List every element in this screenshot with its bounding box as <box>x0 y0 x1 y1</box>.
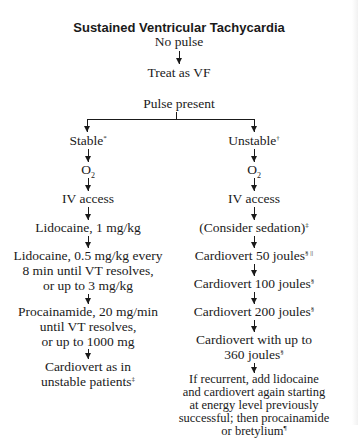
branch-line <box>87 119 254 120</box>
node-cardiovert-360: Cardiovert with up to360 joules§ <box>176 332 332 362</box>
node-pulse-present: Pulse present <box>0 96 358 111</box>
node-cardiovert-50: Cardiovert 50 joules§ || <box>176 248 332 263</box>
connector-line <box>176 112 177 119</box>
arrow-down-icon <box>84 178 93 191</box>
arrow-down-icon <box>83 119 92 132</box>
arrow-down-icon <box>250 149 259 162</box>
arrow-down-icon <box>250 119 259 132</box>
node-unstable: Unstable† <box>176 133 332 148</box>
arrow-down-icon <box>175 51 184 64</box>
node-consider-sedation: (Consider sedation)‡ <box>176 220 332 235</box>
arrow-down-icon <box>250 264 259 276</box>
node-lidocaine-2: Lidocaine, 0.5 mg/kg every8 min until VT… <box>0 248 176 293</box>
arrow-down-icon <box>250 178 259 191</box>
arrow-down-icon <box>250 320 259 332</box>
page-edge-shadow <box>352 0 358 425</box>
node-unstable-oxygen: O2 <box>176 162 332 177</box>
node-stable-iv-access: IV access <box>0 191 176 206</box>
node-lidocaine-1: Lidocaine, 1 mg/kg <box>0 220 176 235</box>
node-unstable-iv-access: IV access <box>176 191 332 206</box>
diagram-title: Sustained Ventricular Tachycardia <box>0 20 358 35</box>
arrow-down-icon <box>84 294 93 304</box>
arrow-down-icon <box>250 292 259 304</box>
node-cardiovert-as-unstable: Cardiovert as inunstable patients‡ <box>0 359 176 389</box>
arrow-down-icon <box>84 149 93 162</box>
node-procainamide: Procainamide, 20 mg/minuntil VT resolves… <box>0 304 176 349</box>
node-cardiovert-200: Cardiovert 200 joules§ <box>176 304 332 319</box>
node-no-pulse: No pulse <box>0 34 358 49</box>
node-cardiovert-100: Cardiovert 100 joules§ <box>176 276 332 291</box>
node-stable: Stable* <box>0 133 176 148</box>
node-treat-as-vf: Treat as VF <box>0 65 358 80</box>
arrow-down-icon <box>250 207 259 220</box>
arrow-down-icon <box>84 236 93 248</box>
arrow-down-icon <box>84 207 93 220</box>
node-if-recurrent: If recurrent, add lidocaine and cardiove… <box>176 373 332 438</box>
arrow-down-icon <box>250 236 259 248</box>
node-stable-oxygen: O2 <box>0 162 176 177</box>
arrow-down-icon <box>84 349 93 359</box>
